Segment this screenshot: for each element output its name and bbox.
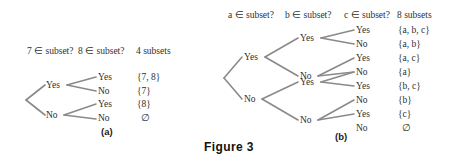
panel-a-node-l2-yes-2: Yes [98,99,112,110]
panel-b-node-l2-no-2: No [300,115,312,126]
panel-b-result-1: {a, b, c} [398,25,430,36]
edge-yes-yes [67,77,96,85]
panel-b-subset-tree-3-elements: a ∈ subset? b ∈ subset? c ∈ subset? 8 su… [220,0,458,140]
panel-b-node-l3-5: Yes [356,81,370,92]
panel-b-header-col3: c ∈ subset? [344,10,390,21]
panel-a-subset-tree-2-elements: 7 ∈ subset? 8 ∈ subset? 4 subsets Yes No… [0,0,220,140]
edge-root-no [26,100,45,115]
figure-3: 7 ∈ subset? 8 ∈ subset? 4 subsets Yes No… [0,0,458,162]
panel-a-node-l2-yes-1: Yes [98,72,112,83]
panel-b-header-col4: 8 subsets [397,10,432,21]
panel-b-header-col2: b ∈ subset? [285,10,331,21]
panel-b-header-col1: a ∈ subset? [228,10,274,21]
panel-a-tree-lines [0,0,220,140]
panel-a-header-col3: 4 subsets [136,46,171,57]
panel-a-result-1: {7, 8} [137,72,160,83]
panel-b-result-3: {a, c} [398,53,420,64]
figure-caption: Figure 3 [0,140,458,154]
panel-a-node-l1-yes: Yes [46,80,60,91]
edge-root-yes [26,85,45,100]
panel-a-header-col1: 7 ∈ subset? [27,46,73,57]
edge-b3-no [321,82,354,86]
edge-no-yes [64,104,96,115]
panel-a-result-4: ∅ [141,113,150,124]
panel-a-sublabel: (a) [101,126,113,137]
edge-root-no [224,78,242,99]
panel-a-header-col2: 8 ∈ subset? [78,46,124,57]
panel-b-result-2: {a, b} [398,39,421,50]
edge-a-yes-b-no [265,57,298,76]
panel-b-node-l3-1: Yes [356,25,370,36]
panel-b-node-l1-no: No [244,94,256,105]
panel-b-node-l3-7: Yes [356,109,370,120]
panel-b-result-4: {a} [398,67,411,78]
panel-a-node-l2-no-1: No [98,86,110,97]
panel-b-tree-lines [220,0,458,140]
panel-b-result-6: {b} [398,95,412,106]
panel-b-node-l3-8: No [356,123,368,134]
panel-b-node-l3-6: No [356,95,368,106]
panel-b-node-l3-3: Yes [356,53,370,64]
panel-b-node-l3-2: No [356,39,368,50]
panel-a-node-l2-no-2: No [98,113,110,124]
panel-a-result-3: {8} [137,99,151,110]
panel-b-node-l2-yes-2: Yes [300,77,314,88]
panel-b-node-l1-yes: Yes [244,52,258,63]
panel-b-node-l2-yes-1: Yes [300,33,314,44]
panel-b-node-l3-4: No [356,67,368,78]
edge-a-no-b-yes [262,82,298,99]
edge-no-no [64,115,96,119]
panel-a-result-2: {7} [137,86,151,97]
edge-a-yes-b-yes [265,38,298,57]
edge-yes-no [67,85,96,91]
edge-b1-no [321,38,354,44]
edge-root-yes [224,57,242,78]
panel-b-result-8: ∅ [402,123,411,134]
panel-b-result-7: {c} [398,109,411,120]
edge-b1-yes [321,30,354,38]
panel-b-result-5: {b, c} [398,81,421,92]
edge-a-no-b-no [262,99,298,120]
panel-a-node-l1-no: No [46,110,58,121]
